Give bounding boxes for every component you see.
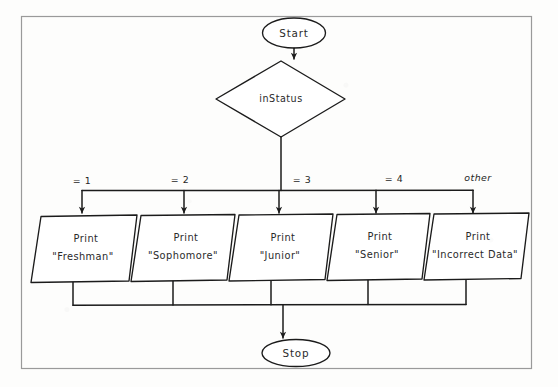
branch-label-4: = 4 bbox=[385, 173, 403, 184]
output-1-line-2: "Freshman" bbox=[52, 251, 113, 262]
output-parallelogram-5 bbox=[424, 213, 529, 280]
merge-bus-line bbox=[73, 304, 466, 305]
output-parallelogram-2 bbox=[131, 215, 235, 282]
branch-label-5: other bbox=[464, 172, 492, 183]
output-parallelogram-4 bbox=[327, 214, 430, 281]
output-4-line-2: "Senior" bbox=[355, 249, 399, 260]
output-4-line-1: Print bbox=[368, 231, 393, 242]
output-5-line-1: Print bbox=[466, 231, 491, 242]
decision-label: inStatus bbox=[259, 93, 302, 104]
output-5-line-2: "Incorrect Data" bbox=[432, 249, 518, 260]
output-2-line-2: "Sophomore" bbox=[148, 250, 218, 261]
start-label: Start bbox=[279, 27, 308, 39]
output-3-line-1: Print bbox=[271, 232, 296, 243]
flowchart-canvas: Start inStatus = 1 = 2 = 3 = 4 other Pri… bbox=[0, 0, 558, 387]
stop-label: Stop bbox=[283, 347, 310, 359]
output-1-line-1: Print bbox=[74, 233, 99, 244]
output-2-line-1: Print bbox=[174, 232, 199, 243]
branch-label-2: = 2 bbox=[171, 174, 189, 185]
branch-label-1: = 1 bbox=[73, 175, 91, 186]
flowchart-svg: Start inStatus = 1 = 2 = 3 = 4 other Pri… bbox=[0, 0, 558, 387]
output-parallelogram-1 bbox=[31, 215, 137, 283]
branch-label-3: = 3 bbox=[293, 174, 311, 185]
output-3-line-2: "Junior" bbox=[260, 250, 301, 261]
output-parallelogram-3 bbox=[229, 214, 333, 281]
